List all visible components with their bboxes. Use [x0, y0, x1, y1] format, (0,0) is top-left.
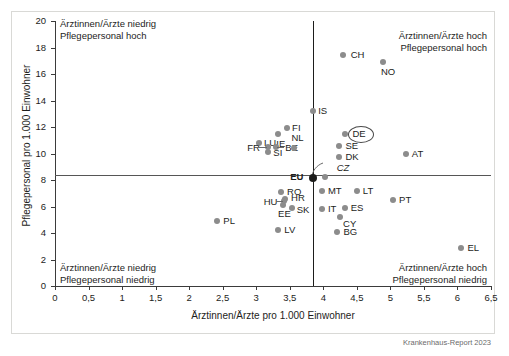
quadrant-label-bottom-left: Ärztinnen/Ärzte niedrig Pflegepersonal n… — [60, 262, 156, 285]
x-tick-mark — [323, 286, 324, 290]
data-point-label-at: AT — [412, 149, 423, 159]
data-point-label-pl: PL — [223, 216, 235, 226]
data-point-label-lv: LV — [284, 225, 295, 235]
y-tick-label: 20 — [0, 16, 46, 25]
y-tick-mark — [51, 180, 55, 181]
x-tick-mark — [89, 286, 90, 290]
x-tick-label: 0,5 — [74, 293, 104, 303]
y-tick-mark — [51, 154, 55, 155]
x-tick-mark — [223, 286, 224, 290]
x-tick-label: 4 — [308, 293, 338, 303]
x-tick-label: 3 — [241, 293, 271, 303]
data-point-ch[interactable] — [340, 52, 346, 58]
x-tick-label: 1 — [107, 293, 137, 303]
data-point-at[interactable] — [403, 151, 409, 157]
x-tick-mark — [357, 286, 358, 290]
x-tick-label: 0 — [40, 293, 70, 303]
data-point-label-hu: HU — [264, 197, 278, 207]
vertical-reference-line — [313, 21, 314, 286]
quadrant-label-top-left: Ärztinnen/Ärzte niedrig Pflegepersonal h… — [60, 18, 156, 41]
data-point-is[interactable] — [310, 108, 316, 114]
x-axis-line — [55, 286, 491, 287]
data-point-label-ee: EE — [278, 209, 291, 219]
y-tick-mark — [51, 127, 55, 128]
x-tick-mark — [256, 286, 257, 290]
x-tick-label: 5,5 — [409, 293, 439, 303]
data-point-lv[interactable] — [275, 227, 281, 233]
data-point-label-eu: EU — [290, 172, 303, 182]
data-point-label-ch: CH — [351, 50, 365, 60]
y-tick-mark — [51, 233, 55, 234]
data-point-mt[interactable] — [319, 188, 325, 194]
data-point-label-pt: PT — [399, 195, 411, 205]
data-point-it[interactable] — [319, 206, 325, 212]
data-point-pt[interactable] — [390, 197, 396, 203]
y-tick-mark — [51, 21, 55, 22]
x-tick-label: 2,5 — [208, 293, 238, 303]
data-point-label-se: SE — [345, 141, 358, 151]
leader-line-fr — [255, 147, 267, 148]
quadrant-label-bottom-right: Ärztinnen/Ärzte hoch Pflegepersonal nied… — [392, 262, 487, 285]
x-tick-label: 4,5 — [342, 293, 372, 303]
data-point-label-lt: LT — [363, 186, 373, 196]
y-axis-line — [55, 21, 56, 287]
x-tick-mark — [457, 286, 458, 290]
data-point-ie[interactable] — [275, 131, 281, 137]
x-tick-mark — [491, 286, 492, 290]
data-point-label-si: SI — [273, 148, 282, 158]
x-axis-title: Ärztinnen/Ärzte pro 1.000 Einwohner — [55, 310, 491, 321]
x-tick-mark — [424, 286, 425, 290]
x-tick-mark — [156, 286, 157, 290]
data-point-pl[interactable] — [214, 218, 220, 224]
data-point-label-sk: SK — [297, 205, 310, 215]
data-point-lt[interactable] — [354, 188, 360, 194]
x-tick-mark — [189, 286, 190, 290]
y-tick-mark — [51, 74, 55, 75]
y-tick-mark — [51, 101, 55, 102]
data-point-label-es: ES — [351, 203, 364, 213]
data-point-ro[interactable] — [278, 189, 284, 195]
data-point-label-fr: FR — [247, 143, 260, 153]
x-tick-label: 5 — [375, 293, 405, 303]
quadrant-label-top-right: Ärztinnen/Ärzte hoch Pflegepersonal hoch — [399, 30, 487, 53]
x-tick-mark — [122, 286, 123, 290]
data-point-label-mt: MT — [328, 186, 342, 196]
data-point-label-hr: HR — [291, 193, 305, 203]
source-note: Krankenhaus-Report 2023 — [403, 338, 491, 347]
data-point-label-el: EL — [467, 243, 479, 253]
y-axis-title: Pflegepersonal pro 1.000 Einwohner — [21, 26, 32, 266]
x-tick-mark — [290, 286, 291, 290]
data-point-label-no: NO — [381, 67, 395, 77]
horizontal-reference-line — [55, 175, 491, 176]
data-point-dk[interactable] — [336, 154, 342, 160]
data-point-es[interactable] — [342, 205, 348, 211]
data-point-bg[interactable] — [334, 229, 340, 235]
x-tick-mark — [390, 286, 391, 290]
x-tick-mark — [55, 286, 56, 290]
data-point-label-dk: DK — [345, 152, 358, 162]
scatter-plot: 02468101214161820 00,511,522,533,544,555… — [0, 0, 509, 356]
y-tick-mark — [51, 48, 55, 49]
figure-container: 02468101214161820 00,511,522,533,544,555… — [0, 0, 509, 356]
data-point-no[interactable] — [380, 59, 386, 65]
y-tick-mark — [51, 207, 55, 208]
x-tick-label: 6 — [442, 293, 472, 303]
data-point-se[interactable] — [336, 143, 342, 149]
data-point-label-bg: BG — [343, 227, 357, 237]
x-tick-label: 1,5 — [141, 293, 171, 303]
y-tick-label: 0 — [0, 281, 46, 290]
data-point-label-it: IT — [328, 204, 336, 214]
data-point-el[interactable] — [458, 245, 464, 251]
data-point-label-is: IS — [318, 106, 327, 116]
data-point-si[interactable] — [265, 149, 271, 155]
x-tick-label: 2 — [174, 293, 204, 303]
x-tick-label: 6,5 — [476, 293, 506, 303]
x-tick-label: 3,5 — [275, 293, 305, 303]
data-point-sk[interactable] — [289, 205, 295, 211]
data-point-fi[interactable] — [284, 125, 290, 131]
data-point-label-nl: NL — [291, 133, 303, 143]
y-tick-mark — [51, 260, 55, 261]
